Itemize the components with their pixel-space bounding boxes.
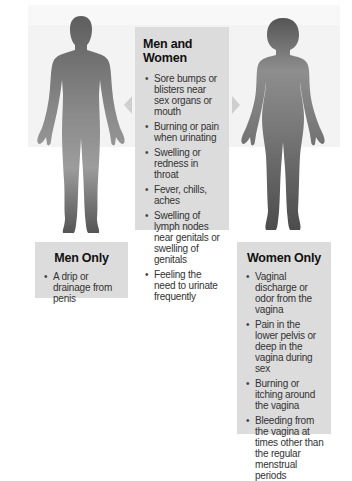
men-only-list: A drip or drainage from penis bbox=[42, 271, 121, 304]
men-only-title: Men Only bbox=[42, 251, 121, 265]
arrow-right-icon bbox=[232, 96, 240, 114]
women-only-list: Vaginal discharge or odor from the vagin… bbox=[244, 271, 324, 481]
list-item: A drip or drainage from penis bbox=[42, 271, 121, 304]
list-item: Burning or itching around the vagina bbox=[244, 378, 324, 411]
men-only-box: Men Only A drip or drainage from penis bbox=[35, 242, 128, 298]
women-only-title: Women Only bbox=[244, 251, 324, 265]
list-item: Sore bumps or blisters near sex organs o… bbox=[143, 73, 221, 117]
list-item: Vaginal discharge or odor from the vagin… bbox=[244, 271, 324, 315]
list-item: Burning or pain when urinating bbox=[143, 121, 221, 143]
men-and-women-title: Men and Women bbox=[143, 37, 221, 65]
male-silhouette-icon bbox=[36, 16, 126, 236]
list-item: Bleeding from the vagina at times other … bbox=[244, 415, 324, 481]
men-and-women-box: Men and Women Sore bumps or blisters nea… bbox=[135, 27, 229, 230]
list-item: Feeling the need to urinate frequently bbox=[143, 269, 221, 302]
list-item: Swelling or redness in throat bbox=[143, 147, 221, 180]
list-item: Fever, chills, aches bbox=[143, 184, 221, 206]
female-silhouette-icon bbox=[238, 18, 328, 236]
arrow-left-icon bbox=[124, 96, 132, 114]
list-item: Pain in the lower pelvis or deep in the … bbox=[244, 319, 324, 374]
list-item: Swelling of lymph nodes near genitals or… bbox=[143, 210, 221, 265]
women-only-box: Women Only Vaginal discharge or odor fro… bbox=[237, 242, 331, 434]
men-and-women-list: Sore bumps or blisters near sex organs o… bbox=[143, 73, 221, 302]
